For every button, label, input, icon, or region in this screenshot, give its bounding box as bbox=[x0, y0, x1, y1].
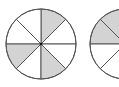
circle-1 bbox=[6, 9, 76, 79]
fraction-circles-diagram bbox=[0, 0, 119, 87]
center-dot bbox=[40, 43, 43, 46]
circle-2 bbox=[90, 9, 119, 79]
